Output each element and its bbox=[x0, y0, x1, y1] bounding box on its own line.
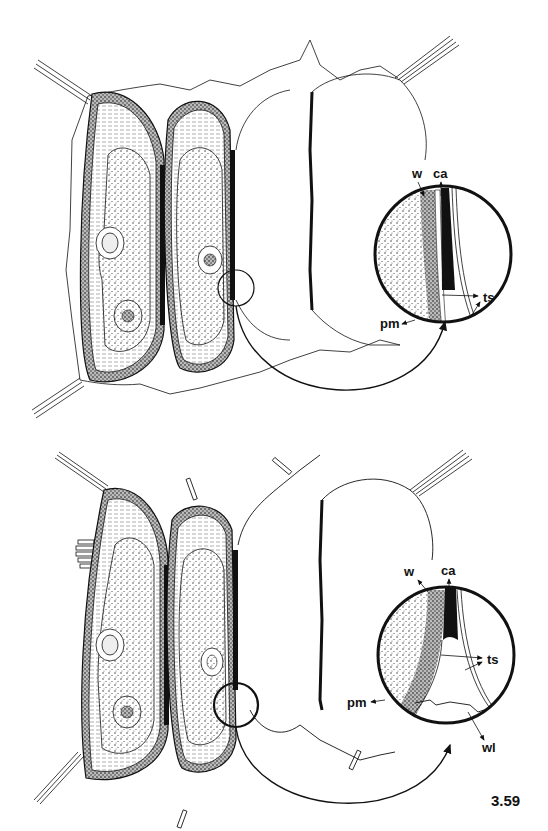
inset-bottom bbox=[370, 580, 530, 730]
label-pm-top: pm bbox=[380, 316, 400, 331]
figure-number: 3.59 bbox=[491, 792, 520, 809]
bottom-panel: w ca ts pm wl 3.59 bbox=[34, 450, 530, 828]
right-cell-bottom bbox=[167, 506, 236, 772]
label-w-top: w bbox=[411, 166, 423, 181]
right-cell-top bbox=[164, 101, 234, 372]
strand-bundle-bottom-right bbox=[410, 450, 472, 496]
outer-boundary-top bbox=[88, 40, 398, 96]
dark-wall-right-top bbox=[230, 150, 235, 300]
inset-top bbox=[370, 180, 520, 330]
strand-bundle-top-right bbox=[395, 36, 459, 84]
magnify-arrow-bottom bbox=[236, 728, 450, 803]
label-pm-bottom: pm bbox=[347, 695, 367, 710]
label-ca-bottom: ca bbox=[441, 563, 456, 578]
sep-outline-2 bbox=[250, 710, 395, 760]
label-w-bottom: w bbox=[403, 564, 415, 579]
label-wl-bottom: wl bbox=[481, 740, 496, 755]
rod-2 bbox=[272, 457, 291, 474]
label-ts-bottom: ts bbox=[487, 652, 499, 667]
separating-cell-2-bottom bbox=[320, 500, 322, 710]
rod-1 bbox=[186, 478, 197, 500]
separating-cell-2 bbox=[310, 92, 312, 310]
label-ts-top: ts bbox=[483, 290, 495, 305]
top-panel: w ca ts pm bbox=[32, 36, 520, 418]
dark-wall-right-bottom bbox=[233, 550, 238, 690]
magnify-arrow-top bbox=[236, 306, 445, 390]
left-cell-top bbox=[80, 92, 164, 382]
rod-3 bbox=[177, 810, 187, 828]
figure-canvas: w ca ts pm bbox=[0, 0, 548, 831]
label-ca-top: ca bbox=[433, 166, 448, 181]
left-cell-bottom bbox=[82, 488, 168, 779]
sep-outline-1 bbox=[238, 455, 320, 545]
separating-cell-1 bbox=[236, 90, 290, 340]
